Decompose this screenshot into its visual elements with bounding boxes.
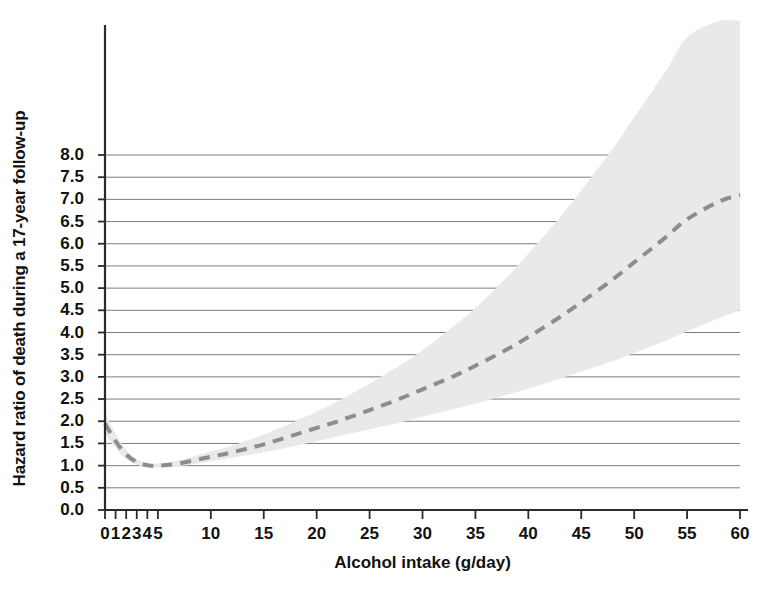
x-tick-label: 25 <box>360 524 379 544</box>
x-tick-label: 30 <box>413 524 432 544</box>
x-tick-label: 1 <box>111 524 120 544</box>
x-tick-label: 2 <box>121 524 130 544</box>
x-tick-label: 3 <box>132 524 141 544</box>
x-axis-title: Alcohol intake (g/day) <box>105 553 740 573</box>
x-tick-label: 35 <box>466 524 485 544</box>
x-tick-label: 45 <box>572 524 591 544</box>
x-tick-label: 60 <box>731 524 750 544</box>
x-tick-label: 55 <box>678 524 697 544</box>
x-tick-label: 0 <box>100 524 109 544</box>
x-tick-label: 15 <box>254 524 273 544</box>
x-tick-label: 50 <box>625 524 644 544</box>
x-tick-labels: 0123451015202530354045505560 <box>0 0 768 597</box>
x-tick-label: 10 <box>201 524 220 544</box>
chart-figure: Hazard ratio of death during a 17-year f… <box>0 0 768 597</box>
x-tick-label: 5 <box>153 524 162 544</box>
x-tick-label: 40 <box>519 524 538 544</box>
x-tick-label: 4 <box>143 524 152 544</box>
x-tick-label: 20 <box>307 524 326 544</box>
